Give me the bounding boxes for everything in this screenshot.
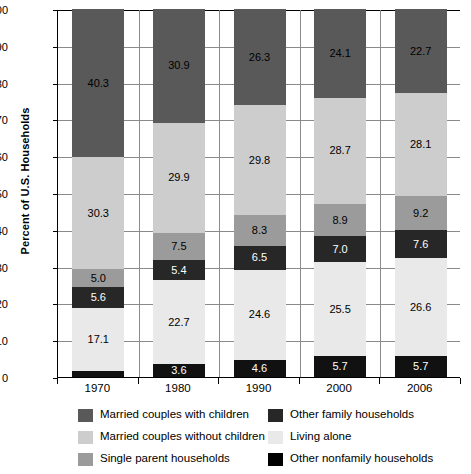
legend-item[interactable]: Other family households xyxy=(268,409,458,422)
legend-swatch-icon xyxy=(78,453,93,466)
y-axis-tick-mark xyxy=(53,10,58,11)
bar-segment[interactable]: 22.7 xyxy=(153,280,205,364)
legend-item[interactable]: Married couples without children xyxy=(78,431,268,444)
category-separator xyxy=(219,10,220,377)
bar-segment[interactable]: 29.8 xyxy=(234,105,286,215)
bar-value-label: 5.6 xyxy=(91,292,106,303)
y-axis-tick-mark xyxy=(53,120,58,121)
bar-segment[interactable]: 7.5 xyxy=(153,233,205,261)
legend-item[interactable]: Married couples with children xyxy=(78,409,268,422)
y-axis-tick-label: 20 xyxy=(0,299,8,310)
bar-value-label: 24.6 xyxy=(249,309,270,320)
y-axis-tick-label: 70 xyxy=(0,115,8,126)
legend-label: Married couples with children xyxy=(100,409,249,421)
legend-item[interactable]: Living alone xyxy=(268,431,458,444)
bar-1990[interactable]: 4.624.66.58.329.826.3 xyxy=(234,9,286,377)
bar-value-label: 9.2 xyxy=(413,208,428,219)
bar-1980[interactable]: 3.622.75.47.529.930.9 xyxy=(153,9,205,377)
y-axis-tick-label: 90 xyxy=(0,41,8,52)
chart-root: Percent of U.S. Households 0102030405060… xyxy=(0,0,471,474)
bar-value-label: 24.1 xyxy=(329,48,350,59)
bar-value-label: 6.5 xyxy=(252,252,267,263)
bar-value-label: 5.4 xyxy=(171,265,186,276)
bar-value-label: 7.6 xyxy=(413,239,428,250)
bar-value-label: 5.7 xyxy=(332,361,347,372)
bar-value-label: 25.5 xyxy=(329,304,350,315)
category-separator xyxy=(300,10,301,377)
bar-segment[interactable]: 24.6 xyxy=(234,270,286,361)
x-axis-tick-label-1970: 1970 xyxy=(62,382,132,394)
bar-segment[interactable]: 28.1 xyxy=(395,93,447,196)
bar-segment[interactable]: 40.3 xyxy=(72,9,124,157)
bar-value-label: 17.1 xyxy=(88,334,109,345)
bar-value-label: 40.3 xyxy=(88,78,109,89)
bar-value-label: 26.6 xyxy=(410,302,431,313)
legend-item[interactable]: Single parent households xyxy=(78,453,268,466)
legend-label: Living alone xyxy=(290,431,351,443)
bar-segment[interactable]: 26.6 xyxy=(395,258,447,356)
y-axis-tick-mark xyxy=(53,194,58,195)
legend-swatch-icon xyxy=(78,431,93,444)
legend-label: Married couples without children xyxy=(100,431,265,443)
bar-segment[interactable]: 25.5 xyxy=(314,262,366,356)
y-axis-tick-mark xyxy=(53,47,58,48)
bar-value-label: 22.7 xyxy=(168,317,189,328)
bar-value-label: 29.8 xyxy=(249,155,270,166)
y-axis-tick-mark xyxy=(53,84,58,85)
bar-segment[interactable]: 7.6 xyxy=(395,230,447,258)
bar-segment[interactable]: 5.7 xyxy=(314,356,366,377)
x-axis-tick-mark xyxy=(379,378,380,384)
bar-segment[interactable]: 5.0 xyxy=(72,269,124,287)
x-axis-tick-label-1980: 1980 xyxy=(143,382,213,394)
legend-swatch-icon xyxy=(268,409,283,422)
bar-segment[interactable]: 8.3 xyxy=(234,215,286,246)
legend-item[interactable]: Other nonfamily households xyxy=(268,453,458,466)
bar-value-label: 28.7 xyxy=(329,145,350,156)
y-axis-tick-label: 50 xyxy=(0,189,8,200)
y-axis-tick-label: 40 xyxy=(0,225,8,236)
bar-segment[interactable]: 26.3 xyxy=(234,9,286,106)
y-axis-tick-label: 10 xyxy=(0,336,8,347)
bar-value-label: 4.6 xyxy=(252,363,267,374)
bar-segment[interactable]: 30.9 xyxy=(153,9,205,123)
bar-value-label: 7.0 xyxy=(332,244,347,255)
bar-segment[interactable]: 24.1 xyxy=(314,9,366,98)
bar-segment[interactable]: 22.7 xyxy=(395,9,447,93)
bar-segment[interactable]: 3.6 xyxy=(153,364,205,377)
legend-label: Single parent households xyxy=(100,453,230,465)
x-axis-tick-mark xyxy=(57,378,58,384)
bar-1970[interactable]: 17.15.65.030.340.3 xyxy=(72,9,124,377)
x-axis-tick-mark xyxy=(460,378,461,384)
category-separator xyxy=(380,10,381,377)
legend-swatch-icon xyxy=(268,453,283,466)
legend-label: Other family households xyxy=(290,409,414,421)
bar-segment[interactable]: 9.2 xyxy=(395,196,447,230)
y-axis-tick-mark xyxy=(53,341,58,342)
bar-segment[interactable]: 28.7 xyxy=(314,98,366,204)
plot-area: 17.15.65.030.340.33.622.75.47.529.930.94… xyxy=(57,10,460,378)
bar-segment[interactable]: 5.4 xyxy=(153,260,205,280)
bar-2006[interactable]: 5.726.67.69.228.122.7 xyxy=(395,9,447,377)
bar-value-label: 30.9 xyxy=(168,60,189,71)
bar-segment[interactable]: 6.5 xyxy=(234,246,286,270)
bar-segment[interactable]: 5.6 xyxy=(72,287,124,308)
legend-swatch-icon xyxy=(78,409,93,422)
legend-label: Other nonfamily households xyxy=(290,453,433,465)
x-axis-tick-label-2000: 2000 xyxy=(304,382,374,394)
bar-value-label: 29.9 xyxy=(168,172,189,183)
bar-segment[interactable] xyxy=(72,371,124,377)
bar-segment[interactable]: 17.1 xyxy=(72,308,124,371)
bar-segment[interactable]: 30.3 xyxy=(72,157,124,269)
bar-segment[interactable]: 7.0 xyxy=(314,236,366,262)
bar-segment[interactable]: 5.7 xyxy=(395,356,447,377)
y-axis-tick-mark xyxy=(53,157,58,158)
bar-segment[interactable]: 4.6 xyxy=(234,360,286,377)
y-axis-tick-label: 100 xyxy=(0,5,8,16)
bar-segment[interactable]: 29.9 xyxy=(153,123,205,233)
bar-2000[interactable]: 5.725.57.08.928.724.1 xyxy=(314,9,366,377)
y-axis-tick-label: 80 xyxy=(0,78,8,89)
bar-value-label: 8.9 xyxy=(332,215,347,226)
bar-value-label: 30.3 xyxy=(88,208,109,219)
y-axis-tick-mark xyxy=(53,268,58,269)
bar-segment[interactable]: 8.9 xyxy=(314,204,366,237)
